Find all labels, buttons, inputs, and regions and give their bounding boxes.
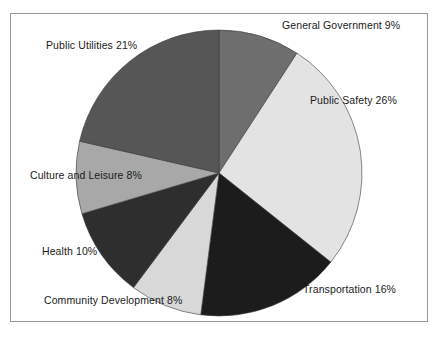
- pie-label-general-government: General Government 9%: [282, 19, 400, 31]
- screenshot-root: General Government 9% Public Safety 26% …: [0, 0, 440, 338]
- pie-label-public-utilities: Public Utilities 21%: [46, 39, 137, 51]
- chart-frame: [10, 13, 428, 322]
- pie-label-community-development: Community Development 8%: [44, 294, 182, 306]
- pie-label-culture-and-leisure: Culture and Leisure 8%: [30, 169, 142, 181]
- pie-label-health: Health 10%: [42, 245, 97, 257]
- pie-label-public-safety: Public Safety 26%: [310, 94, 397, 106]
- pie-label-transportation: Transportation 16%: [303, 283, 396, 295]
